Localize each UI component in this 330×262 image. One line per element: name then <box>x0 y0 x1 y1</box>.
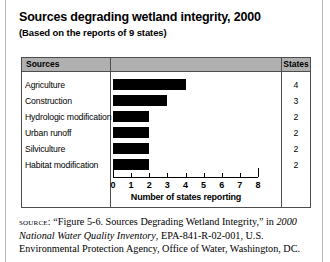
bar <box>113 111 149 122</box>
x-axis-tick <box>240 173 241 177</box>
source-note: source: “Figure 5-6. Sources Degrading W… <box>19 215 315 256</box>
x-axis-tick-label: 8 <box>251 180 265 190</box>
states-count: 2 <box>282 160 310 170</box>
x-axis-tick-label: 5 <box>197 180 211 190</box>
x-axis-tick <box>149 173 150 177</box>
row-label: Construction <box>25 96 72 106</box>
bar <box>113 159 149 170</box>
x-axis-tick-label: 1 <box>124 180 138 190</box>
x-axis-tick <box>131 173 132 177</box>
x-axis-tick-label: 4 <box>179 180 193 190</box>
row-label: Silviculture <box>25 144 65 154</box>
bar <box>113 79 186 90</box>
x-axis-tick <box>258 168 259 177</box>
row-label: Urban runoff <box>25 128 71 138</box>
x-axis-tick-label: 2 <box>142 180 156 190</box>
x-axis-tick-label: 0 <box>106 180 120 190</box>
table-header-sources: Sources <box>22 58 110 72</box>
states-count: 3 <box>282 96 310 106</box>
row-label: Habitat modification <box>25 160 98 170</box>
bar <box>113 95 167 106</box>
page-edge-rule-right <box>322 0 323 262</box>
figure-title: Sources degrading wetland integrity, 200… <box>19 10 261 24</box>
row-label: Hydrologic modification <box>25 112 111 122</box>
x-axis-tick <box>186 173 187 177</box>
source-label: source: <box>19 216 51 227</box>
bar <box>113 127 149 138</box>
table-header-states: States <box>282 58 310 72</box>
states-count: 2 <box>282 112 310 122</box>
states-count: 4 <box>282 80 310 90</box>
x-axis-tick <box>204 173 205 177</box>
x-axis-title: Number of states reporting <box>113 192 259 202</box>
page-edge-rule-left <box>5 0 6 262</box>
x-axis-line <box>113 177 258 178</box>
x-axis-tick <box>113 168 114 177</box>
states-count: 2 <box>282 128 310 138</box>
source-text-part1: “Figure 5-6. Sources Degrading Wetland I… <box>51 216 277 227</box>
x-axis-tick <box>167 173 168 177</box>
x-axis-tick-label: 3 <box>160 180 174 190</box>
x-axis-tick <box>222 173 223 177</box>
row-label: Agriculture <box>25 80 65 90</box>
states-count: 2 <box>282 144 310 154</box>
x-axis-tick-label: 7 <box>233 180 247 190</box>
table-header-chart <box>111 58 281 72</box>
x-axis-tick-label: 6 <box>215 180 229 190</box>
bar <box>113 143 149 154</box>
figure-subtitle: (Based on the reports of 9 states) <box>19 27 167 38</box>
